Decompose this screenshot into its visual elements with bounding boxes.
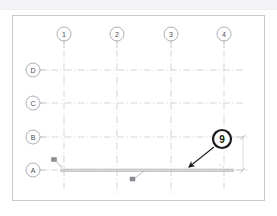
detail-marker-left[interactable] [52, 158, 63, 169]
row-grid-lines [38, 70, 244, 170]
detail-marker-bottom[interactable] [130, 171, 144, 181]
callout-bubble-label: 9 [219, 134, 225, 145]
grid-bubble-label-c: C [30, 100, 35, 107]
grid-bubble-c[interactable]: C [26, 96, 40, 110]
structural-grid-drawing[interactable]: 1 2 3 4 D C [0, 0, 277, 216]
grid-bubble-label-b: B [31, 134, 36, 141]
callout-bubble-9[interactable]: 9 [213, 130, 231, 148]
grid-bubble-2[interactable]: 2 [110, 27, 124, 41]
row-grid-bubbles[interactable]: D C B A [26, 63, 40, 177]
detail-marker-left-flag [52, 158, 57, 162]
grid-bubble-3[interactable]: 3 [164, 27, 178, 41]
grid-bubble-label-d: D [30, 67, 35, 74]
grid-bubble-1[interactable]: 1 [57, 27, 71, 41]
grid-bubble-b[interactable]: B [26, 130, 40, 144]
row-bubble-leaders [40, 70, 47, 170]
grid-bubble-a[interactable]: A [26, 163, 40, 177]
grid-bubble-label-1: 1 [62, 31, 66, 38]
detail-marker-bottom-flag [130, 177, 135, 181]
grid-bubble-label-3: 3 [169, 31, 173, 38]
grid-bubble-label-2: 2 [115, 31, 119, 38]
callout-leader [189, 147, 214, 167]
column-bubble-leaders [64, 41, 224, 48]
beam-edge-tags [60, 164, 224, 168]
grid-bubble-4[interactable]: 4 [217, 27, 231, 41]
edge-tag-right [219, 164, 224, 168]
grid-bubble-label-a: A [31, 167, 36, 174]
cad-drawing-viewer[interactable]: 1 2 3 4 D C [0, 0, 277, 216]
column-grid-bubbles[interactable]: 1 2 3 4 [57, 27, 231, 41]
grid-bubble-label-4: 4 [222, 31, 226, 38]
detail-marker-bottom-leader [135, 171, 144, 178]
callout-leader-line [189, 147, 214, 167]
grid-a-beam[interactable] [60, 169, 234, 171]
grid-bubble-d[interactable]: D [26, 63, 40, 77]
